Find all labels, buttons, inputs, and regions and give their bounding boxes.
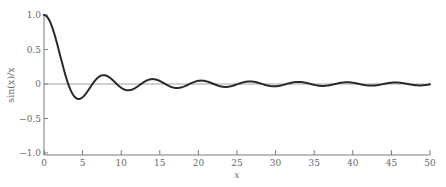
y-tick-label: −1.0 — [19, 148, 41, 158]
x-tick-label: 15 — [154, 158, 166, 168]
sinc-chart: 05101520253035404550 1.00.50−0.5−1.0 x s… — [0, 0, 446, 187]
y-axis-label: sin(x)/x — [5, 67, 16, 103]
y-tick-label: 1.0 — [27, 10, 42, 20]
y-tick-label: 0 — [35, 79, 41, 89]
x-tick-label: 30 — [270, 158, 282, 168]
x-tick-label: 5 — [80, 158, 86, 168]
x-tick-label: 25 — [231, 158, 243, 168]
x-tick-label: 0 — [41, 158, 47, 168]
x-axis-label: x — [234, 169, 240, 180]
x-tick-label: 10 — [115, 158, 127, 168]
x-tick-label: 35 — [308, 158, 320, 168]
x-tick-label: 40 — [347, 158, 359, 168]
y-tick-label: 0.5 — [27, 45, 42, 55]
x-ticks: 05101520253035404550 — [41, 150, 436, 168]
x-tick-label: 50 — [424, 158, 436, 168]
y-tick-label: −0.5 — [19, 114, 41, 124]
sinc-curve — [44, 15, 430, 99]
x-tick-label: 45 — [386, 158, 398, 168]
x-tick-label: 20 — [193, 158, 205, 168]
